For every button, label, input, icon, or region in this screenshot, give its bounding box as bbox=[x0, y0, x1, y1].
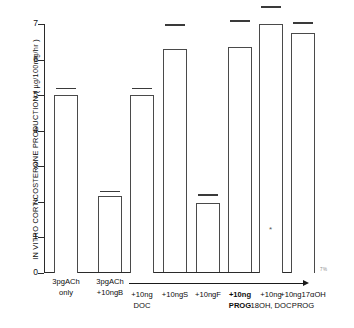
treatment-arrow-head bbox=[303, 280, 309, 286]
x-axis-label-line: only bbox=[59, 288, 73, 297]
bar bbox=[98, 196, 122, 272]
bar bbox=[196, 203, 220, 272]
error-bar-cap bbox=[165, 24, 185, 26]
bar bbox=[259, 24, 283, 273]
figure-root: IN VITRO CORTICOSTERONE PRODUCTION ( µg/… bbox=[0, 0, 354, 328]
y-tick-label: 1 bbox=[14, 232, 38, 241]
y-tick-label: 2 bbox=[14, 197, 38, 206]
y-tick-mark bbox=[38, 237, 44, 238]
x-axis-label-line: PROG bbox=[292, 301, 314, 310]
error-bar-cap bbox=[132, 88, 152, 90]
significance-asterisk: * bbox=[269, 226, 272, 234]
error-bar-cap bbox=[56, 88, 76, 90]
corner-artifact-text: 7% bbox=[320, 267, 327, 272]
y-tick-label: 3 bbox=[14, 161, 38, 170]
y-tick-mark bbox=[38, 24, 44, 25]
x-axis-label-line: 3pgACh bbox=[96, 277, 123, 286]
y-tick-mark bbox=[38, 95, 44, 96]
y-tick-mark bbox=[38, 60, 44, 61]
bar bbox=[228, 47, 252, 272]
treatment-arrow-line bbox=[129, 283, 305, 284]
y-tick-label: 0 bbox=[14, 268, 38, 277]
y-tick-mark bbox=[38, 166, 44, 167]
bar bbox=[163, 49, 187, 273]
y-tick-label: 7 bbox=[14, 19, 38, 28]
x-axis-label-line: +10ng17αOH bbox=[280, 290, 326, 299]
y-tick-label: 4 bbox=[14, 126, 38, 135]
y-tick-mark bbox=[38, 202, 44, 203]
error-bar-cap bbox=[230, 20, 250, 22]
y-tick-mark bbox=[38, 131, 44, 132]
y-axis-line bbox=[44, 24, 45, 273]
error-bar-cap bbox=[198, 194, 218, 196]
y-tick-mark bbox=[38, 273, 44, 274]
error-bar-cap bbox=[293, 22, 313, 24]
error-bar-cap bbox=[261, 6, 281, 8]
bar bbox=[130, 95, 154, 273]
x-axis-label: +10ng17αOHPROG bbox=[269, 290, 337, 311]
y-tick-label: 6 bbox=[14, 55, 38, 64]
error-bar-cap bbox=[100, 191, 120, 193]
bar bbox=[291, 33, 315, 273]
y-tick-label: 5 bbox=[14, 90, 38, 99]
bar bbox=[54, 95, 78, 273]
x-axis-label-line: DOC bbox=[134, 301, 151, 310]
